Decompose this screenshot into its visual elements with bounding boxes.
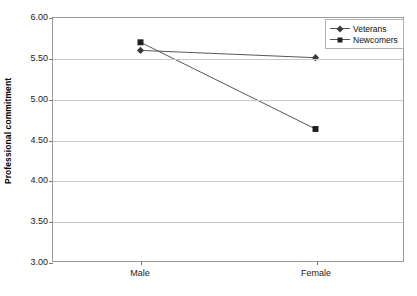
gridline bbox=[53, 181, 403, 182]
y-tickmark bbox=[49, 100, 53, 101]
y-tickmark bbox=[49, 141, 53, 142]
legend-label-newcomers: Newcomers bbox=[353, 35, 398, 45]
legend-item-veterans: Veterans bbox=[330, 23, 398, 34]
gridline bbox=[53, 222, 403, 223]
series-layer bbox=[53, 18, 403, 261]
square-marker-icon bbox=[313, 126, 319, 132]
y-tickmark bbox=[49, 222, 53, 223]
x-axis-tick-labels: MaleFemale bbox=[52, 268, 404, 288]
gridline bbox=[53, 100, 403, 101]
y-axis-tick-labels: 6.005.505.004.504.003.503.00 bbox=[14, 0, 48, 296]
y-tick-label: 5.00 bbox=[18, 94, 48, 104]
y-tickmark bbox=[49, 59, 53, 60]
y-tick-label: 5.50 bbox=[18, 53, 48, 63]
series-line-newcomers bbox=[141, 42, 316, 129]
y-tick-label: 4.50 bbox=[18, 135, 48, 145]
y-tick-label: 4.00 bbox=[18, 175, 48, 185]
x-tick-label: Male bbox=[130, 268, 150, 278]
diamond-marker-icon bbox=[330, 23, 350, 34]
y-tickmark bbox=[49, 181, 53, 182]
gridline bbox=[53, 59, 403, 60]
plot-area bbox=[52, 17, 404, 262]
y-tickmark bbox=[49, 263, 53, 264]
y-tick-label: 3.50 bbox=[18, 216, 48, 226]
chart-legend: Veterans Newcomers bbox=[325, 19, 404, 49]
y-tick-label: 3.00 bbox=[18, 257, 48, 267]
y-tickmark bbox=[49, 18, 53, 19]
square-marker-icon bbox=[138, 39, 144, 45]
x-tick-label: Female bbox=[301, 268, 331, 278]
legend-item-newcomers: Newcomers bbox=[330, 34, 398, 45]
legend-label-veterans: Veterans bbox=[353, 24, 387, 34]
diamond-marker-icon bbox=[137, 47, 144, 54]
y-tick-label: 6.00 bbox=[18, 12, 48, 22]
x-tickmark bbox=[317, 261, 318, 265]
diamond-marker-icon bbox=[312, 54, 319, 61]
square-marker-icon bbox=[330, 34, 350, 45]
gridline bbox=[53, 141, 403, 142]
y-axis-title-label: Professional commitment bbox=[3, 78, 13, 184]
line-chart: Professional commitment 6.005.505.004.50… bbox=[0, 0, 417, 296]
x-tickmark bbox=[141, 261, 142, 265]
series-line-veterans bbox=[141, 50, 316, 57]
